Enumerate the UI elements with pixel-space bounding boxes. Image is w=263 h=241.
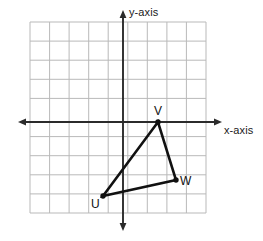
y-axis-label: y-axis xyxy=(129,6,158,18)
x-axis xyxy=(18,119,222,126)
graph-canvas xyxy=(0,0,263,241)
vertex-label-v: V xyxy=(154,104,162,118)
coordinate-plane-figure: y-axis x-axis V U W xyxy=(0,0,263,241)
x-axis-arrow-right-icon xyxy=(214,119,222,126)
vertex-marker-v xyxy=(155,119,160,124)
y-axis-arrow-up-icon xyxy=(120,10,127,18)
y-axis-arrow-down-icon xyxy=(120,223,127,231)
vertex-marker-w xyxy=(173,177,178,182)
x-axis-arrow-left-icon xyxy=(18,119,26,126)
vertex-label-u: U xyxy=(91,197,100,211)
triangle-outline xyxy=(103,122,176,196)
y-axis xyxy=(120,10,127,231)
vertex-label-w: W xyxy=(180,174,191,188)
vertex-marker-u xyxy=(100,193,105,198)
x-axis-label: x-axis xyxy=(224,124,253,136)
